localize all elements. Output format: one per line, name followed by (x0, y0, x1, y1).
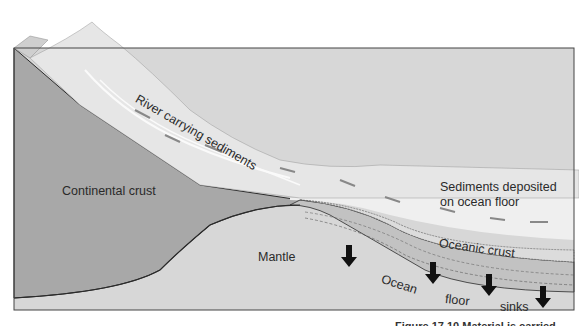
label-continental-crust: Continental crust (62, 184, 156, 198)
ocean-floor-diagram (0, 0, 579, 332)
label-sinks: sinks (500, 300, 528, 314)
label-sediments-line2: on ocean floor (440, 195, 519, 209)
label-mantle: Mantle (258, 250, 296, 264)
label-sediments: Sediments deposited (440, 180, 557, 194)
label-floor: floor (445, 292, 471, 308)
